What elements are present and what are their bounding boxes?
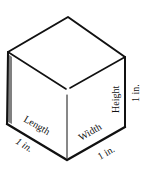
- width-label: Width: [77, 121, 104, 143]
- height-label: Height: [110, 86, 121, 113]
- top-right-inner-edge: [70, 57, 125, 88]
- height-measure-label: 1 in.: [130, 84, 141, 102]
- top-left-inner-edge: [8, 52, 66, 89]
- cube-diagram: Length 1 in. Width 1 in. Height 1 in.: [0, 0, 149, 173]
- left-vertical-edge: [7, 52, 8, 124]
- top-face-outline: [8, 17, 125, 57]
- width-measure-label: 1 in.: [96, 143, 117, 161]
- length-label: Length: [22, 113, 52, 137]
